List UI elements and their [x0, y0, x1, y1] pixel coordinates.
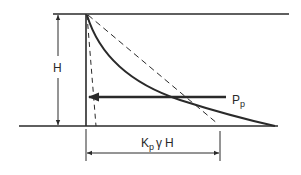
- passive-pressure-curve: [87, 15, 275, 126]
- dashed-steep-line: [87, 15, 96, 126]
- dashed-linear-line: [88, 15, 218, 124]
- height-label: H: [53, 61, 62, 75]
- base-dimension-label: KpγH: [141, 136, 174, 152]
- earth-pressure-diagram: H Pp KpγH: [0, 0, 301, 175]
- passive-force-label: Pp: [232, 93, 245, 109]
